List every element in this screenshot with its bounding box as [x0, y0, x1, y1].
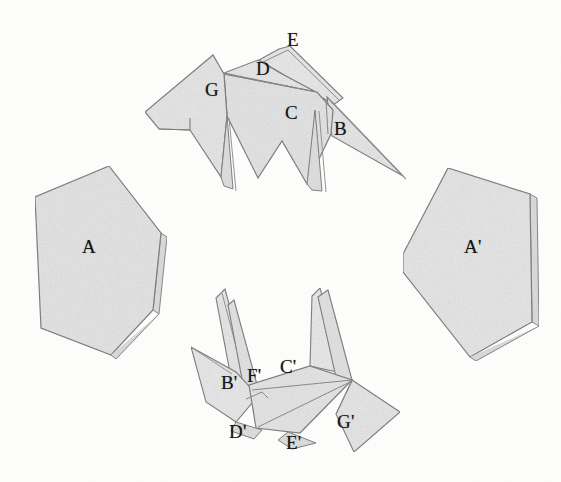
label-C: C — [285, 103, 298, 122]
pentagon-A-face — [35, 166, 161, 355]
label-pentagon-A-prime: A' — [464, 237, 482, 256]
pentagon-A-prime-group — [403, 168, 539, 361]
label-F-prime: F' — [247, 366, 261, 385]
label-C-prime: C' — [280, 357, 297, 376]
origami-top-group — [145, 46, 406, 192]
figure-canvas: E D G C B A A' C' F' B' D' E' G' — [0, 0, 561, 482]
label-G: G — [205, 80, 219, 99]
pentagon-A-prime-face — [403, 168, 532, 357]
label-E-prime: E' — [286, 433, 301, 452]
label-pentagon-A: A — [82, 237, 96, 256]
label-D: D — [256, 59, 270, 78]
label-D-prime: D' — [229, 422, 247, 441]
label-B: B — [334, 119, 347, 138]
label-B-prime: B' — [221, 373, 238, 392]
pentagon-A-group — [35, 166, 167, 359]
wing-G — [145, 55, 227, 177]
label-G-prime: G' — [337, 412, 355, 431]
label-E: E — [287, 30, 299, 49]
